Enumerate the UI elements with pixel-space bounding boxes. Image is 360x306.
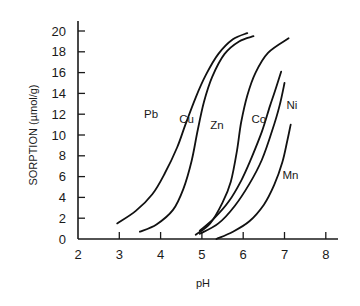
- series-label-zn: Zn: [210, 119, 223, 131]
- y-axis-ticks: 02468101214161820: [52, 24, 85, 247]
- x-axis-title: pH: [196, 277, 210, 289]
- y-tick-label: 12: [52, 107, 66, 122]
- x-tick-label: 3: [116, 247, 123, 262]
- y-tick-label: 2: [59, 211, 66, 226]
- x-tick-label: 4: [157, 247, 164, 262]
- y-axis-title: SORPTION (µmol/g): [27, 84, 39, 185]
- y-tick-label: 8: [59, 148, 66, 163]
- y-tick-label: 4: [59, 190, 66, 205]
- series-label-co: Co: [251, 113, 266, 125]
- y-tick-label: 20: [52, 24, 66, 39]
- x-tick-label: 2: [74, 247, 81, 262]
- y-tick-label: 16: [52, 65, 66, 80]
- series-line-ni: [200, 83, 285, 234]
- y-tick-label: 14: [52, 86, 66, 101]
- series-label-mn: Mn: [282, 169, 298, 181]
- series-line-mn: [216, 125, 290, 239]
- sorption-chart: 2345678 02468101214161820 pH SORPTION (µ…: [0, 0, 360, 306]
- x-tick-label: 8: [322, 247, 329, 262]
- series-label-pb: Pb: [144, 108, 158, 120]
- x-tick-label: 5: [198, 247, 205, 262]
- series-line-pb: [117, 33, 247, 223]
- series-line-co: [200, 72, 281, 231]
- data-series: [117, 33, 291, 239]
- axes: [78, 21, 338, 239]
- y-tick-label: 10: [52, 128, 66, 143]
- series-label-ni: Ni: [287, 99, 298, 111]
- y-tick-label: 6: [59, 169, 66, 184]
- y-tick-label: 0: [59, 232, 66, 247]
- x-tick-label: 7: [281, 247, 288, 262]
- series-label-cu: Cu: [179, 113, 194, 125]
- y-tick-label: 18: [52, 44, 66, 59]
- x-axis-ticks: 2345678: [74, 232, 329, 262]
- x-tick-label: 6: [240, 247, 247, 262]
